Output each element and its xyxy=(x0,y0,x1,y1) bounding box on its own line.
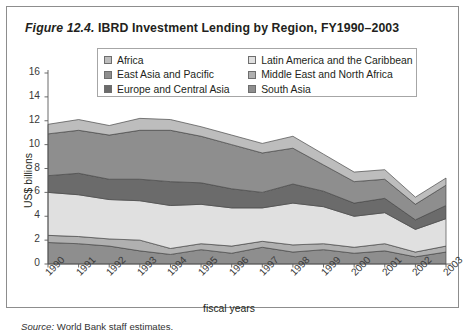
y-tick-label: 16 xyxy=(18,66,40,77)
y-tick-label: 12 xyxy=(18,114,40,125)
y-tick-label: 2 xyxy=(18,233,40,244)
chart-series-group xyxy=(48,118,446,264)
y-tick-label: 14 xyxy=(18,90,40,101)
y-tick-label: 4 xyxy=(18,209,40,220)
source-prefix: Source: xyxy=(21,321,54,332)
y-tick-label: 10 xyxy=(18,138,40,149)
y-tick-label: 8 xyxy=(18,162,40,173)
y-tick-label: 6 xyxy=(18,185,40,196)
source-text: World Bank staff estimates. xyxy=(57,321,173,332)
y-tick-label: 0 xyxy=(18,257,40,268)
source-note: Source: World Bank staff estimates. xyxy=(21,321,173,332)
figure-frame: Figure 12.4. IBRD Investment Lending by … xyxy=(6,6,459,308)
